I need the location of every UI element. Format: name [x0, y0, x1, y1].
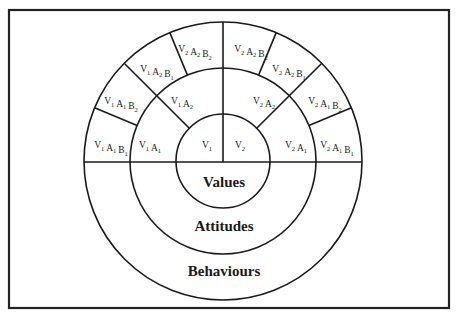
segment-label-v1a2b2: V2 A2 B2: [178, 44, 212, 61]
values-label: Values: [203, 174, 245, 190]
segment-label-v1a2b1: V1 A2 B1: [140, 64, 174, 81]
behaviours-label: Behaviours: [188, 263, 261, 279]
segment-label-v2a1: V2 A1: [285, 140, 307, 154]
segment-label-v1: V1: [202, 140, 212, 152]
segment-label-v1a1b2: V1 A1 B2: [104, 96, 138, 113]
segment-label-v1a1: V1 A1: [139, 140, 161, 154]
segment-label-v2a2b2: V2 A2 B2: [234, 44, 268, 61]
segment-label-v2a2b1: V2 A2 B1: [272, 64, 306, 81]
values-attitudes-behaviours-diagram: V1V2 V1 A1V1 A2V2 A2V2 A1 V1 A1 B1V1 A1 …: [0, 0, 457, 316]
segment-label-v2a1b1: V2 A1 B1: [320, 140, 354, 157]
segment-label-v2: V2: [235, 140, 245, 152]
segment-label-v2a1b2: V2 A1 B2: [308, 96, 342, 113]
attitudes-label: Attitudes: [194, 218, 253, 234]
segment-label-v1a2: V1 A2: [171, 96, 193, 110]
segment-label-v1a1b1: V1 A1 B1: [94, 140, 128, 157]
segment-label-v2a2: V2 A2: [253, 96, 275, 110]
